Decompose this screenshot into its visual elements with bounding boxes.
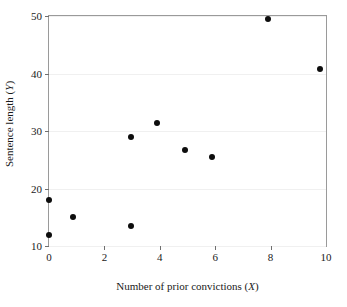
data-point [128, 223, 134, 229]
y-tick-label-40: 40 [31, 68, 42, 79]
x-axis-title-suffix: ) [255, 280, 259, 292]
y-axis-title-prefix: Sentence length ( [3, 91, 15, 167]
x-tick-label-4: 4 [157, 252, 163, 263]
plot-area: 1020304050 0246810 [48, 15, 327, 247]
x-axis-title-prefix: Number of prior convictions ( [116, 280, 248, 292]
y-axis-variable: Y [3, 85, 15, 91]
gridline-y-10 [49, 246, 326, 247]
x-axis-variable: X [248, 280, 255, 292]
x-tick-label-0: 0 [46, 252, 52, 263]
y-tick-mark-50 [45, 16, 49, 17]
x-tick-mark-4 [160, 246, 161, 250]
y-axis-title: Sentence length (Y) [2, 8, 16, 240]
y-tick-label-30: 30 [31, 126, 42, 137]
data-point [182, 147, 188, 153]
scatter-plot-figure: 1020304050 0246810 Number of prior convi… [0, 0, 347, 307]
y-tick-label-10: 10 [31, 241, 42, 252]
y-tick-mark-10 [45, 246, 49, 247]
y-tick-mark-40 [45, 74, 49, 75]
data-point [46, 232, 52, 238]
data-point [265, 16, 271, 22]
x-tick-mark-8 [271, 246, 272, 250]
data-point [70, 214, 76, 220]
data-point [209, 154, 215, 160]
y-tick-mark-20 [45, 189, 49, 190]
x-tick-label-2: 2 [102, 252, 108, 263]
x-tick-label-6: 6 [212, 252, 218, 263]
y-tick-label-50: 50 [31, 11, 42, 22]
y-tick-label-20: 20 [31, 183, 42, 194]
x-tick-mark-6 [215, 246, 216, 250]
x-tick-label-8: 8 [268, 252, 274, 263]
data-point [128, 134, 134, 140]
data-point [46, 197, 52, 203]
y-tick-mark-30 [45, 131, 49, 132]
x-tick-label-10: 10 [321, 252, 332, 263]
y-axis-title-suffix: ) [3, 81, 15, 85]
data-point [154, 120, 160, 126]
data-point [317, 66, 323, 72]
data-points-layer [49, 16, 326, 246]
x-tick-mark-2 [104, 246, 105, 250]
x-axis-title: Number of prior convictions (X) [48, 280, 327, 293]
